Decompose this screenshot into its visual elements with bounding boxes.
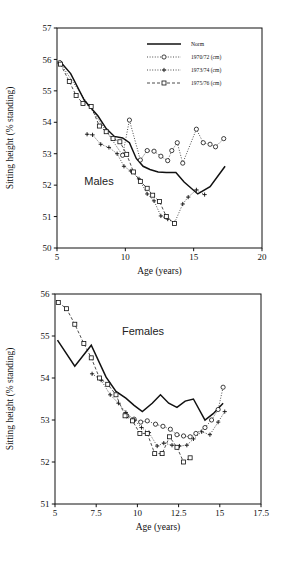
data-point-square xyxy=(138,431,142,435)
data-point-square xyxy=(73,322,77,326)
data-point-plus xyxy=(185,443,189,447)
series-group-1970-72-cm- xyxy=(125,385,226,439)
y-axis-tick-label: 53 xyxy=(43,149,53,159)
data-point-circle xyxy=(152,149,156,153)
data-point-square xyxy=(89,105,93,109)
data-point-square xyxy=(81,101,85,105)
data-point-square xyxy=(125,152,129,156)
y-axis-tick-label: 51 xyxy=(41,499,50,509)
legend-label-2: 1973/74 (cm) xyxy=(191,67,221,74)
data-point-plus xyxy=(90,133,94,137)
chart-svg: 50515253545556575101520Age (years)Sittin… xyxy=(0,0,282,281)
data-point-circle xyxy=(175,433,179,437)
y-axis-tick-label: 53 xyxy=(41,415,51,425)
data-point-circle xyxy=(127,118,131,122)
data-point-plus xyxy=(216,420,220,424)
data-point-circle xyxy=(201,141,205,145)
series-line xyxy=(57,340,223,420)
data-point-square xyxy=(104,130,108,134)
data-point-square xyxy=(160,452,164,456)
data-point-plus xyxy=(162,441,166,445)
data-point-square xyxy=(114,393,118,397)
data-point-circle xyxy=(181,434,185,438)
legend-label-1: 1970/72 (cm) xyxy=(191,54,221,61)
x-axis-tick-label: 10 xyxy=(121,252,131,262)
data-point-circle xyxy=(175,141,179,145)
chart-legend: Norm1970/72 (cm)1973/74 (cm)1975/76 (cm) xyxy=(147,41,221,87)
data-point-circle xyxy=(221,385,225,389)
y-axis-tick-label: 51 xyxy=(43,212,52,222)
data-point-plus xyxy=(152,199,156,203)
data-point-square xyxy=(82,342,86,346)
data-point-circle xyxy=(168,427,172,431)
data-point-square xyxy=(111,137,115,141)
y-axis-tick-label: 55 xyxy=(43,86,53,96)
data-point-square xyxy=(188,456,192,460)
legend-label-3: 1975/76 (cm) xyxy=(191,80,221,87)
y-axis-tick-label: 55 xyxy=(41,331,51,341)
plot-frame xyxy=(57,28,262,248)
data-point-circle xyxy=(170,148,174,152)
x-axis-tick-label: 10 xyxy=(133,508,143,518)
data-point-square xyxy=(123,414,127,418)
data-point-circle xyxy=(208,142,212,146)
data-point-square xyxy=(118,140,122,144)
data-point-circle xyxy=(138,158,142,162)
legend-marker-circle xyxy=(162,55,166,59)
data-point-plus xyxy=(170,443,174,447)
data-point-plus xyxy=(155,444,159,448)
y-axis-tick-label: 52 xyxy=(43,180,52,190)
data-point-circle xyxy=(194,127,198,131)
data-point-square xyxy=(58,62,62,66)
x-axis-title: Age (years) xyxy=(136,522,181,533)
legend-marker-square xyxy=(162,81,166,85)
data-point-circle xyxy=(181,161,185,165)
y-axis-tick-label: 56 xyxy=(43,55,53,65)
data-point-circle xyxy=(222,137,226,141)
data-point-square xyxy=(164,215,168,219)
data-point-square xyxy=(168,435,172,439)
y-axis-title: Sitting height (% standing) xyxy=(5,348,16,451)
y-axis-tick-label: 57 xyxy=(43,23,53,33)
data-point-square xyxy=(74,94,78,98)
data-point-plus xyxy=(145,192,149,196)
data-point-circle xyxy=(145,419,149,423)
data-point-plus xyxy=(200,430,204,434)
data-point-square xyxy=(97,376,101,380)
data-point-square xyxy=(158,199,162,203)
data-point-circle xyxy=(121,153,125,157)
data-point-plus xyxy=(181,202,185,206)
x-axis-tick-label: 15 xyxy=(189,252,199,262)
data-point-square xyxy=(173,221,177,225)
data-point-square xyxy=(153,452,157,456)
x-axis-tick-label: 20 xyxy=(258,252,268,262)
data-point-square xyxy=(138,179,142,183)
data-point-circle xyxy=(161,424,165,428)
y-axis-title: Sitting height (% standing) xyxy=(5,87,16,190)
data-point-circle xyxy=(166,159,170,163)
data-point-square xyxy=(130,419,134,423)
data-point-plus xyxy=(208,433,212,437)
data-point-circle xyxy=(216,407,220,411)
legend-marker-plus xyxy=(162,68,166,72)
series-group-1970-72-cm- xyxy=(58,60,226,165)
series-line xyxy=(60,63,224,164)
chart-panel-males: 50515253545556575101520Age (years)Sittin… xyxy=(0,0,282,281)
figure-container: 50515253545556575101520Age (years)Sittin… xyxy=(0,0,282,562)
x-axis-tick-label: 15 xyxy=(215,508,225,518)
y-axis-tick-label: 54 xyxy=(41,373,51,383)
data-point-circle xyxy=(203,425,207,429)
data-point-circle xyxy=(213,145,217,149)
data-point-circle xyxy=(145,148,149,152)
data-point-square xyxy=(56,300,60,304)
data-point-circle xyxy=(159,154,163,158)
data-point-plus xyxy=(108,393,112,397)
data-point-circle xyxy=(139,420,143,424)
data-point-plus xyxy=(115,152,119,156)
legend-label-0: Norm xyxy=(191,41,205,47)
data-point-circle xyxy=(153,422,157,426)
data-point-plus xyxy=(223,410,227,414)
data-point-square xyxy=(106,382,110,386)
data-point-plus xyxy=(203,192,207,196)
x-axis-tick-label: 12.5 xyxy=(171,508,187,518)
